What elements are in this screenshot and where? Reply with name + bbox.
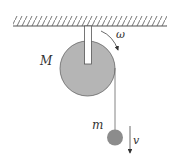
angular-velocity-label: ω [116,29,125,40]
hatched-ceiling-icon [13,16,167,26]
axle-bracket-icon [85,26,92,64]
pulley-mass-label: M [40,55,52,67]
ball-icon [107,130,123,146]
pulley-diagram: M ω m v [0,0,171,166]
velocity-label: v [133,135,139,146]
hanging-mass-label: m [92,119,103,131]
